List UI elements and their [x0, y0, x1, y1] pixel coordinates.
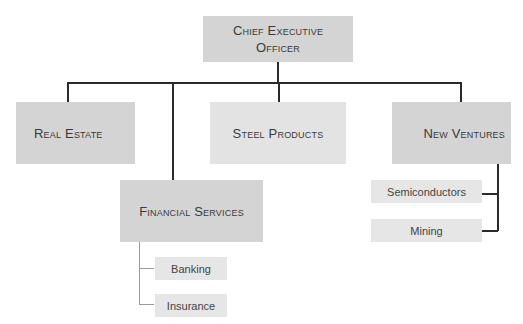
- ventures-sub-connector: [497, 164, 499, 231]
- real-estate-box: Real Estate: [16, 102, 135, 164]
- ceo-title-line2: Officer: [256, 39, 300, 56]
- financial-connector: [172, 82, 174, 180]
- financial-sub-connector: [139, 242, 140, 304]
- semiconductors-label: Semiconductors: [387, 186, 466, 198]
- insurance-label: Insurance: [167, 300, 215, 312]
- steel-products-label: Steel Products: [233, 125, 324, 142]
- ceo-connector: [277, 62, 279, 83]
- financial-services-box: Financial Services: [120, 180, 263, 242]
- mining-label: Mining: [410, 225, 442, 237]
- new-ventures-label: New Ventures: [423, 125, 505, 142]
- banking-box: Banking: [155, 257, 227, 280]
- real-estate-connector: [67, 82, 69, 102]
- ventures-connector: [460, 82, 462, 102]
- banking-label: Banking: [171, 263, 211, 275]
- ceo-title-line1: Chief Executive: [233, 22, 323, 39]
- mining-box: Mining: [371, 219, 482, 242]
- financial-services-label: Financial Services: [139, 203, 244, 220]
- steel-connector: [278, 82, 280, 102]
- division-bus: [67, 82, 461, 84]
- banking-connector: [139, 268, 154, 269]
- real-estate-label: Real Estate: [34, 125, 103, 142]
- ceo-box: Chief Executive Officer: [203, 16, 353, 62]
- insurance-box: Insurance: [155, 294, 227, 317]
- insurance-connector: [139, 304, 154, 305]
- mining-connector: [482, 230, 498, 232]
- new-ventures-box: New Ventures: [392, 102, 511, 164]
- semiconductors-box: Semiconductors: [371, 180, 482, 203]
- semiconductors-connector: [482, 193, 498, 195]
- steel-products-box: Steel Products: [210, 102, 346, 164]
